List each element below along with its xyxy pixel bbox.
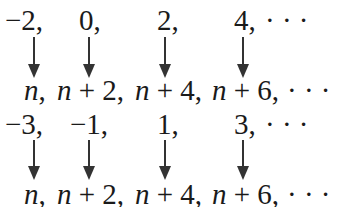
down-arrow-icon bbox=[28, 140, 40, 180]
ellipsis: · · · bbox=[287, 76, 330, 105]
expression-rest: , bbox=[39, 74, 46, 106]
expression-rest: + 2, bbox=[72, 74, 125, 106]
expression-rest: + 2, bbox=[72, 178, 125, 207]
variable-n: n bbox=[24, 74, 39, 106]
variable-n: n bbox=[135, 178, 150, 207]
down-arrow-icon bbox=[159, 140, 171, 180]
expression-rest: · · · bbox=[287, 74, 330, 106]
variable-n: n bbox=[24, 178, 39, 207]
down-arrow-icon bbox=[83, 140, 95, 180]
variable-n: n bbox=[212, 74, 227, 106]
expression-rest: , bbox=[39, 178, 46, 207]
expression-rest: + 6, bbox=[227, 178, 280, 207]
mapping-block-even: −2,0,2,4,· · ·n,n + 2,n + 4,n + 6,· · · bbox=[0, 0, 341, 104]
integer-term: 1, bbox=[157, 110, 179, 139]
expression-term: n, bbox=[24, 180, 46, 207]
integer-term: −1, bbox=[70, 110, 108, 139]
expression-term: n + 2, bbox=[57, 180, 124, 207]
integer-term: −2, bbox=[5, 6, 43, 35]
integer-term: 2, bbox=[157, 6, 179, 35]
variable-n: n bbox=[135, 74, 150, 106]
variable-n: n bbox=[212, 178, 227, 207]
expression-rest: + 6, bbox=[227, 74, 280, 106]
integer-term: −3, bbox=[5, 110, 43, 139]
ellipsis: · · · bbox=[265, 6, 308, 35]
down-arrow-icon bbox=[83, 37, 95, 78]
ellipsis: · · · bbox=[287, 180, 330, 207]
down-arrow-icon bbox=[159, 37, 171, 78]
expression-rest: + 4, bbox=[150, 178, 203, 207]
integer-term: 4, bbox=[234, 6, 256, 35]
down-arrow-icon bbox=[237, 37, 249, 78]
expression-rest: · · · bbox=[287, 178, 330, 207]
down-arrow-icon bbox=[237, 140, 249, 180]
expression-rest: + 4, bbox=[150, 74, 203, 106]
expression-term: n + 6, bbox=[212, 76, 279, 105]
expression-term: n + 2, bbox=[57, 76, 124, 105]
expression-term: n, bbox=[24, 76, 46, 105]
integer-term: 3, bbox=[234, 110, 256, 139]
mapping-block-odd: −3,−1,1,3,· · ·n,n + 2,n + 4,n + 6,· · · bbox=[0, 104, 341, 207]
ellipsis: · · · bbox=[265, 110, 308, 139]
variable-n: n bbox=[57, 178, 72, 207]
integer-term: 0, bbox=[79, 6, 101, 35]
down-arrow-icon bbox=[28, 37, 40, 78]
expression-term: n + 4, bbox=[135, 76, 202, 105]
expression-term: n + 6, bbox=[212, 180, 279, 207]
variable-n: n bbox=[57, 74, 72, 106]
expression-term: n + 4, bbox=[135, 180, 202, 207]
